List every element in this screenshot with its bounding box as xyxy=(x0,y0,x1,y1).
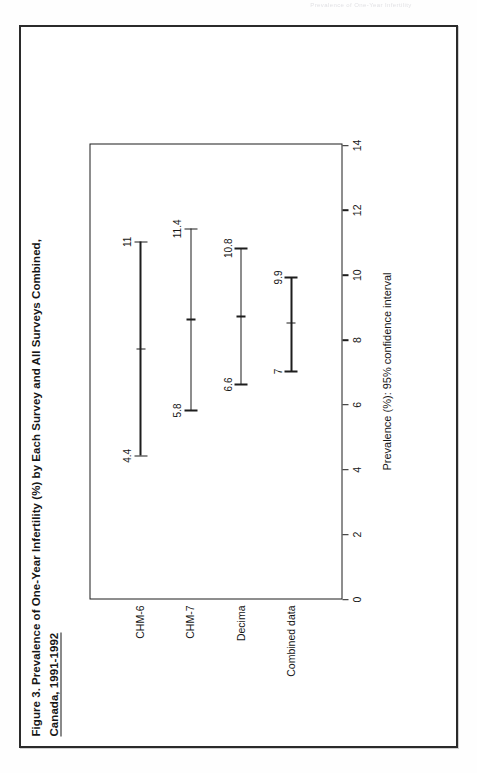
axis-tick-label: 14 xyxy=(351,139,363,151)
errorbar-line xyxy=(291,277,293,371)
category-axis-labels: CHM-6CHM-7DecimaCombined data xyxy=(90,605,343,674)
axis-tick-label: 4 xyxy=(351,466,363,472)
errorbar-lower-value: 5.8 xyxy=(172,403,183,417)
category-label: CHM-6 xyxy=(134,605,146,638)
figure-caption-line-1: Figure 3. Prevalence of One-Year Inferti… xyxy=(30,36,42,736)
axis-tick-label: 10 xyxy=(351,269,363,281)
value-axis: 02468101214 xyxy=(343,143,377,599)
errorbar-point-marker xyxy=(136,348,145,350)
plot-area: CHM-6CHM-7DecimaCombined data 4.4115.811… xyxy=(90,74,400,674)
axis-tick xyxy=(343,404,349,405)
axis-tick xyxy=(343,209,349,210)
errorbar-point-marker xyxy=(287,322,296,324)
axis-tick-label: 6 xyxy=(351,402,363,408)
errorbar-cap xyxy=(285,276,298,278)
plot-box: 4.4115.811.46.610.879.9 xyxy=(90,143,343,599)
axis-tick-label: 8 xyxy=(351,337,363,343)
axis-tick xyxy=(343,533,349,534)
page-header-artifact: Prevalence of One-Year Infertility xyxy=(268,1,454,10)
figure-frame: Figure 3. Prevalence of One-Year Inferti… xyxy=(19,25,458,748)
rotated-figure-stage: Figure 3. Prevalence of One-Year Inferti… xyxy=(24,29,454,744)
errorbar-upper-value: 9.9 xyxy=(272,270,283,284)
figure-caption: Figure 3. Prevalence of One-Year Inferti… xyxy=(30,36,62,736)
errorbar-lower-value: 4.4 xyxy=(122,448,133,462)
errorbar-cap xyxy=(134,455,147,457)
errorbar-cap xyxy=(134,241,147,243)
errorbar-lower-value: 6.6 xyxy=(222,377,233,391)
axis-tick xyxy=(343,339,349,340)
figure-caption-line-2: Canada, 1991-1992 xyxy=(48,632,62,736)
axis-tick-label: 0 xyxy=(351,596,363,602)
errorbar-cap xyxy=(285,370,298,372)
errorbar-upper-value: 11.4 xyxy=(172,219,183,238)
axis-tick xyxy=(343,469,349,470)
errorbar-cap xyxy=(184,409,197,411)
errorbar-point-marker xyxy=(186,318,195,320)
errorbar-upper-value: 10.8 xyxy=(222,238,233,257)
category-label: CHM-7 xyxy=(184,605,196,638)
category-label: Combined data xyxy=(284,605,296,676)
errorbar-upper-value: 11 xyxy=(122,236,133,246)
axis-tick xyxy=(343,598,349,599)
scanned-page: Prevalence of One-Year Infertility Figur… xyxy=(0,0,477,773)
axis-tick-label: 12 xyxy=(351,204,363,216)
errorbar-point-marker xyxy=(237,315,246,317)
errorbar-cap xyxy=(235,383,248,385)
value-axis-title: Prevalence (%): 95% confidence interval xyxy=(381,143,393,599)
axis-tick-label: 2 xyxy=(351,531,363,537)
errorbar-cap xyxy=(184,228,197,230)
axis-tick xyxy=(343,274,349,275)
category-label: Decima xyxy=(234,605,246,641)
axis-tick xyxy=(343,144,349,145)
errorbar-cap xyxy=(235,247,248,249)
errorbar-lower-value: 7 xyxy=(272,368,283,374)
